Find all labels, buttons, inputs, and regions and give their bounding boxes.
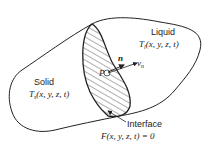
solid-label: Solid xyxy=(34,77,54,87)
point-p-label: P xyxy=(98,68,105,78)
interface-equation: F(x, y, z, t) = 0 xyxy=(100,131,155,141)
liquid-label: Liquid xyxy=(151,27,175,37)
interface-label: Interface xyxy=(127,119,162,129)
liquid-temperature: Tl(x, y, z, t) xyxy=(139,39,179,50)
phase-change-diagram: P n vn Liquid Tl(x, y, z, t) Solid Ts(x,… xyxy=(0,0,211,149)
solid-temperature: Ts(x, y, z, t) xyxy=(29,89,69,100)
normal-vector-label: n xyxy=(118,53,123,63)
velocity-vector-label: vn xyxy=(137,58,144,69)
